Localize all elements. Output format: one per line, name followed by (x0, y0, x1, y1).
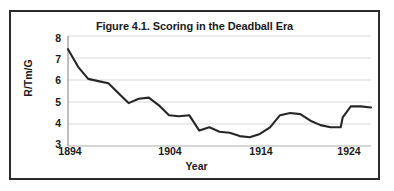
x-tick-1924: 1924 (326, 145, 372, 157)
axis-lines (68, 36, 371, 146)
x-axis-tick-labels: 1894 1904 1914 1924 (11, 145, 382, 161)
figure-frame: Figure 4.1. Scoring in the Deadball Era … (9, 10, 380, 180)
x-axis-title: Year (11, 160, 382, 172)
x-tick-1914: 1914 (238, 145, 284, 157)
gridlines (68, 36, 371, 146)
x-tick-1904: 1904 (147, 145, 193, 157)
x-tick-1894: 1894 (47, 145, 93, 157)
chart-plot-area: R/Tm/G 8 7 6 5 4 3 1894 1904 1914 1924 Y… (11, 12, 382, 182)
